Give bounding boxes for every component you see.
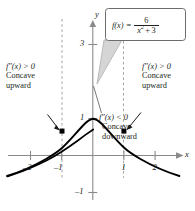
annotation-center-line2: Concave xyxy=(102,122,137,131)
y-axis-arrowhead xyxy=(90,20,97,27)
annotation-right-line3: upward xyxy=(142,81,171,90)
annotation-right: f″(x) > 0 Concave upward xyxy=(142,62,171,90)
denominator-operator: + xyxy=(145,26,150,35)
annotation-left-line2: Concave xyxy=(6,71,35,80)
formula-expression: f(x)= 6 x2+3 xyxy=(112,16,159,36)
annotation-right-line2: Concave xyxy=(142,71,171,80)
denominator-term: 3 xyxy=(151,26,155,35)
center-annotation-leader xyxy=(94,86,102,113)
left-annotation-arrowhead xyxy=(54,125,60,131)
function-curve xyxy=(8,130,94,177)
formula-lhs: f(x) xyxy=(112,21,124,30)
y-axis-label: y xyxy=(95,10,99,20)
annotation-right-math: f″(x) > 0 xyxy=(142,62,171,71)
x-tick-label-pos2: 2 xyxy=(153,163,157,173)
y-tick-label-3: 3 xyxy=(80,39,84,49)
annotation-left-line3: upward xyxy=(6,81,35,90)
annotation-left-math: f″(x) > 0 xyxy=(6,62,35,71)
annotation-center-math: f″(x) < 0 xyxy=(99,113,137,122)
formula-equals: = xyxy=(127,21,132,30)
y-tick-label-1: 1 xyxy=(80,113,84,123)
denominator-exponent: 2 xyxy=(141,25,144,31)
inflection-point-left xyxy=(60,129,65,134)
x-tick-label-pos1: 1 xyxy=(122,163,126,173)
annotation-left: f″(x) > 0 Concave upward xyxy=(6,62,35,90)
annotation-center-line3: downward xyxy=(102,132,137,141)
graph-canvas xyxy=(0,0,195,211)
formula-numerator: 6 xyxy=(134,16,158,25)
formula-fraction: 6 x2+3 xyxy=(134,16,158,36)
formula-denominator: x2+3 xyxy=(134,26,158,35)
x-tick-label-neg2: –2 xyxy=(23,163,32,173)
annotation-center: f″(x) < 0 Concave downward xyxy=(99,113,137,141)
x-tick-label-neg1: –1 xyxy=(54,163,63,173)
callout-tail xyxy=(97,40,122,84)
y-tick-label-neg1: –1 xyxy=(75,187,84,197)
x-axis-arrowhead xyxy=(176,152,184,159)
concavity-figure: f(x)= 6 x2+3 f″(x) > 0 Concave upward f″… xyxy=(0,0,195,211)
x-axis-label: x xyxy=(185,150,189,160)
